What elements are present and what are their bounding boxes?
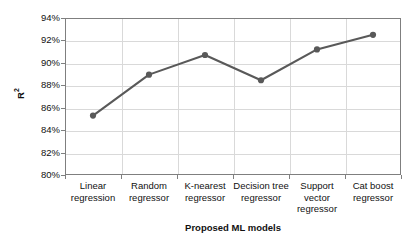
y-axis-tick-label: 84% xyxy=(26,125,60,135)
gridline-horizontal xyxy=(66,131,400,132)
y-axis-title-superscript: 2 xyxy=(13,88,20,92)
x-axis-title: Proposed ML models xyxy=(65,222,401,233)
x-axis-category-label: Support vector regressor xyxy=(289,180,345,215)
y-axis-tick-label: 94% xyxy=(26,13,60,23)
y-axis-tick-mark xyxy=(61,18,65,19)
gridline-horizontal xyxy=(66,154,400,155)
x-axis-tick-mark xyxy=(233,175,234,179)
gridline-vertical xyxy=(122,19,123,174)
y-axis-tick-labels: 80%82%84%86%88%90%92%94% xyxy=(22,0,60,243)
y-axis-tick-mark xyxy=(61,130,65,131)
x-axis-tick-mark xyxy=(401,175,402,179)
y-axis-tick-mark xyxy=(61,63,65,64)
gridline-horizontal xyxy=(66,41,400,42)
x-axis-category-label: Random regressor xyxy=(121,180,177,203)
chart-figure: R2 80%82%84%86%88%90%92%94% Proposed ML … xyxy=(0,0,419,243)
y-axis-tick-mark xyxy=(61,153,65,154)
y-axis-tick-mark xyxy=(61,85,65,86)
x-axis-tick-mark xyxy=(345,175,346,179)
y-axis-tick-label: 92% xyxy=(26,35,60,45)
gridline-horizontal xyxy=(66,86,400,87)
gridline-vertical xyxy=(234,19,235,174)
gridline-vertical xyxy=(178,19,179,174)
y-axis-tick-mark xyxy=(61,40,65,41)
x-axis-category-label: Linear regression xyxy=(65,180,121,203)
gridline-horizontal xyxy=(66,64,400,65)
gridline-horizontal xyxy=(66,109,400,110)
y-axis-tick-label: 88% xyxy=(26,80,60,90)
y-axis-tick-mark xyxy=(61,108,65,109)
x-axis-tick-mark xyxy=(121,175,122,179)
y-axis-tick-label: 90% xyxy=(26,58,60,68)
plot-area xyxy=(65,18,401,175)
x-axis-category-label: Cat boost regressor xyxy=(345,180,401,203)
gridline-vertical xyxy=(346,19,347,174)
y-axis-tick-label: 82% xyxy=(26,148,60,158)
gridline-vertical xyxy=(290,19,291,174)
x-axis-category-label: K-nearest regressor xyxy=(177,180,233,203)
y-axis-tick-label: 80% xyxy=(26,170,60,180)
x-axis-category-label: Decision tree regressor xyxy=(233,180,289,203)
x-axis-tick-mark xyxy=(289,175,290,179)
y-axis-tick-label: 86% xyxy=(26,103,60,113)
x-axis-tick-mark xyxy=(65,175,66,179)
x-axis-tick-mark xyxy=(177,175,178,179)
